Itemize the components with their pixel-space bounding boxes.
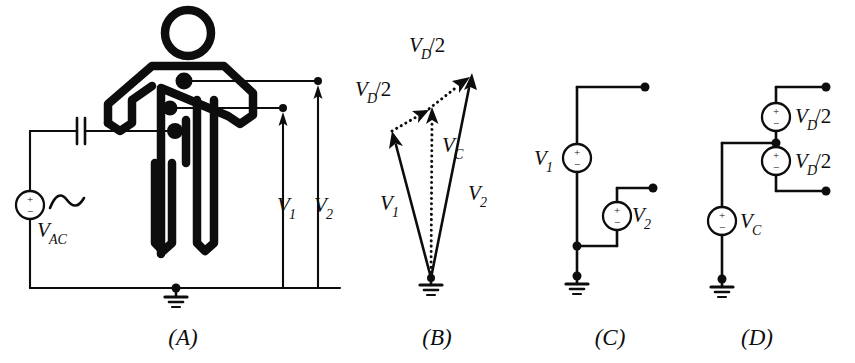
vector-vd-half-2: V D /2: [409, 33, 470, 112]
source-vd-half-lower-d: + − V D /2: [762, 147, 831, 178]
capacitor: [30, 118, 92, 144]
v2-vector-sublabel: 2: [480, 195, 487, 210]
vector-v2: V 2: [431, 73, 487, 278]
c-terminal-dot-2: [649, 184, 658, 193]
body-right-leg: [197, 100, 214, 251]
measurement-arrow-v1: V 1: [277, 112, 296, 288]
vc-vector-head: [426, 107, 439, 124]
body-torso-arms: [108, 66, 253, 254]
c-v2-minus: −: [614, 216, 620, 228]
d-terminal-dot-2: [822, 187, 831, 196]
d-vd-lower-plus: +: [773, 149, 779, 161]
v1-vector-shaft: [396, 145, 431, 278]
panel-label-d: (D): [741, 325, 773, 350]
body-head: [165, 10, 211, 56]
d-vd-upper-frac: /2: [815, 104, 831, 128]
ac-source-plus: +: [27, 193, 33, 205]
vd-half-1-frac: /2: [375, 77, 391, 101]
d-vc-minus: −: [719, 221, 725, 233]
ac-source-minus: −: [27, 205, 33, 217]
ground-symbol-c: [566, 272, 588, 295]
d-vd-lower-frac: /2: [815, 149, 831, 173]
source-vd-half-upper-d: + − V D /2: [762, 103, 831, 133]
d-terminal-dot-1: [822, 83, 831, 92]
vc-vector-shaft: [431, 122, 432, 278]
sine-wave-icon: [50, 196, 84, 209]
vector-v1: V 1: [380, 131, 431, 278]
vector-vd-half-1: V D /2: [355, 77, 429, 131]
d-vc-plus: +: [719, 209, 725, 221]
ac-source-sublabel: AC: [48, 232, 68, 247]
c-v2-plus: +: [614, 204, 620, 216]
c-v1-minus: −: [574, 158, 580, 170]
vd-half-2-frac: /2: [429, 33, 445, 57]
panel-label-c: (C): [595, 325, 626, 350]
v2-vector-shaft: [431, 88, 469, 278]
d-vc-sublabel: C: [752, 223, 762, 238]
vd-half-1-shaft: [392, 116, 418, 131]
c-terminal-dot-1: [641, 83, 650, 92]
d-vd-lower-minus: −: [773, 161, 779, 173]
panel-a: + − V AC V 1 V: [16, 10, 340, 350]
d-vd-upper-plus: +: [773, 105, 779, 117]
vd-half-2-shaft: [425, 86, 458, 112]
panel-label-b: (B): [422, 325, 451, 350]
measurement-arrow-v2: V 2: [314, 85, 334, 288]
c-v1-sublabel: 1: [546, 160, 553, 175]
source-vc-d: + − V C: [708, 207, 762, 238]
panel-b: V 1 V 2 V C V D /2 V: [355, 33, 487, 350]
terminal-dot-v2: [314, 77, 322, 85]
vector-vc: V C: [426, 107, 464, 278]
terminal-dot-v1: [279, 104, 287, 112]
c-v1-plus: +: [574, 146, 580, 158]
v1-sublabel: 1: [289, 207, 296, 222]
v1-vector-sublabel: 1: [392, 205, 399, 220]
vc-vector-sublabel: C: [454, 147, 464, 162]
d-vd-upper-minus: −: [773, 117, 779, 129]
ground-symbol-b: [420, 274, 442, 295]
panel-label-a: (A): [168, 325, 197, 350]
source-v1-c: + − V 1: [534, 144, 591, 175]
c-v2-sublabel: 2: [644, 217, 651, 232]
figure-root: + − V AC V 1 V: [0, 0, 855, 363]
ground-symbol-d: [711, 275, 733, 298]
panel-c: + − V 1 + − V 2: [534, 83, 658, 351]
v2-sublabel: 2: [326, 207, 333, 222]
ac-source: + − V AC: [16, 191, 84, 247]
four-panel-circuit-figure: + − V AC V 1 V: [0, 0, 855, 363]
source-v2-c: + − V 2: [603, 202, 651, 232]
panel-d: + − V D /2 + − V D /2 + − V: [708, 83, 831, 351]
